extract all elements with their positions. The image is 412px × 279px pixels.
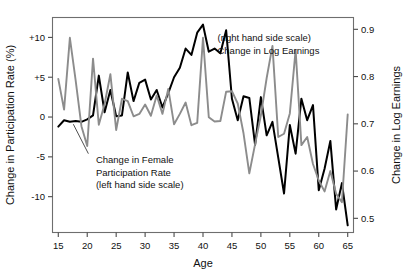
x-tick-label: 60: [313, 240, 324, 251]
x-tick-label: 20: [82, 240, 93, 251]
x-tick-label: 50: [256, 240, 267, 251]
x-tick-label: 55: [285, 240, 296, 251]
log-earnings-annotation-line: (right hand side scale): [217, 32, 310, 43]
x-tick-label: 15: [53, 240, 64, 251]
x-tick-label: 35: [169, 240, 180, 251]
participation-annotation-line: Participation Rate: [96, 167, 171, 178]
right-tick-label: 0.7: [361, 118, 374, 129]
x-tick-label: 30: [140, 240, 151, 251]
participation-annotation-line: (left hand side scale): [96, 179, 184, 190]
right-tick-label: 0.8: [361, 71, 374, 82]
chart-plot-area: +10+50-5-10 0.90.80.70.60.5 152025303540…: [0, 0, 412, 279]
y-axis-title: Change in Participation Rate (%): [4, 45, 16, 205]
y2-axis-title: Change in Log Earnings: [390, 65, 402, 184]
left-tick-label: +10: [29, 32, 45, 43]
left-tick-label: +5: [34, 72, 45, 83]
right-tick-label: 0.9: [361, 24, 374, 35]
x-tick-label: 65: [342, 240, 353, 251]
right-tick-label: 0.5: [361, 213, 374, 224]
x-tick-label: 45: [227, 240, 238, 251]
participation-annotation-line: Change in Female: [96, 154, 174, 165]
right-tick-label: 0.6: [361, 165, 374, 176]
left-tick-label: -5: [37, 151, 45, 162]
left-tick-label: -10: [31, 191, 45, 202]
x-tick-label: 25: [111, 240, 122, 251]
x-tick-label: 40: [198, 240, 209, 251]
chart-figure: +10+50-5-10 0.90.80.70.60.5 152025303540…: [0, 0, 412, 279]
x-axis-title: Age: [193, 257, 213, 269]
log-earnings-annotation-line: Change in Log Earnings: [217, 45, 319, 56]
left-tick-label: 0: [40, 111, 45, 122]
